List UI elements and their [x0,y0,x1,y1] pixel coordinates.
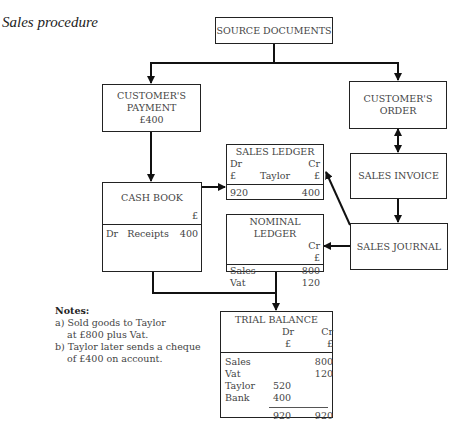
trial-balance-title: TRIAL BALANCE [221,314,332,326]
tb-cr: 120 [303,368,333,380]
nominal-ledger-box: NOMINAL LEDGER Cr £ Sales 800 Vat 120 [226,214,324,272]
notes-heading: Notes: [55,305,201,317]
customers-order-line2: ORDER [380,105,417,117]
customers-order-line1: CUSTOMER'S [364,93,433,105]
sales-invoice-label: SALES INVOICE [358,170,439,182]
customers-payment-box: CUSTOMER'S PAYMENT £400 [102,84,201,132]
nominal-ledger-row: Sales 800 [227,265,323,277]
tb-total-dr: 920 [273,410,303,422]
sales-ledger-cr: Cr [308,158,320,170]
note-b-line1: b) Taylor later sends a cheque [55,341,201,353]
tb-dr: 520 [273,380,303,392]
sales-journal-label: SALES JOURNAL [357,241,441,253]
row-label: Sales [230,265,256,277]
trial-balance-pound-dr: £ [273,338,303,350]
tb-label: Taylor [225,380,273,392]
sales-invoice-box: SALES INVOICE [350,153,447,199]
tb-dr [273,368,303,380]
sales-ledger-credit: 400 [302,187,320,199]
sales-ledger-dr: Dr [230,158,242,170]
sales-journal-box: SALES JOURNAL [350,223,448,270]
customers-payment-line2: PAYMENT [127,102,177,114]
source-documents-label: SOURCE DOCUMENTS [216,25,331,37]
row-value: 800 [302,265,320,277]
sales-ledger-title: SALES LEDGER [227,146,323,158]
cash-book-title: CASH BOOK [103,192,201,204]
row-value: 120 [302,277,320,289]
trial-balance-cr: Cr [303,326,333,338]
tb-dr: 400 [273,392,303,404]
tb-total-cr: 920 [303,410,333,422]
cash-book-pound: £ [192,210,198,222]
cash-book-amount: 400 [180,228,198,240]
nominal-ledger-cr: Cr [308,240,320,252]
note-a-line2: at £800 plus Vat. [55,329,201,341]
tb-label: Sales [225,356,273,368]
notes-block: Notes: a) Sold goods to Taylor at £800 p… [55,305,201,365]
nominal-ledger-row: Vat 120 [227,277,323,289]
sales-ledger-pound-dr: £ [230,170,236,182]
sales-ledger-account: Taylor [260,170,290,182]
tb-cr [303,380,333,392]
tb-cr [303,392,333,404]
tb-label: Vat [225,368,273,380]
row-label: Vat [230,277,245,289]
sales-ledger-box: SALES LEDGER Dr Cr £ Taylor £ 920 400 [226,144,324,200]
cash-book-box: CASH BOOK £ Dr Receipts 400 [102,182,202,272]
trial-balance-box: TRIAL BALANCE Dr Cr £ £ Sales 800 Vat 12… [220,311,333,418]
source-documents-box: SOURCE DOCUMENTS [215,17,333,44]
tb-dr [273,356,303,368]
cash-book-receipts: Receipts [127,228,169,239]
note-a-line1: a) Sold goods to Taylor [55,317,201,329]
sales-ledger-debit: 920 [230,187,248,199]
sales-ledger-pound-cr: £ [314,170,320,182]
note-b-line2: of £400 on account. [55,353,201,365]
customers-payment-amount: £400 [139,114,163,126]
tb-cr: 800 [303,356,333,368]
trial-balance-pound-cr: £ [303,338,333,350]
tb-label: Bank [225,392,273,404]
trial-balance-dr: Dr [273,326,303,338]
customers-order-box: CUSTOMER'S ORDER [349,81,447,129]
nominal-ledger-title: NOMINAL LEDGER [227,216,323,240]
customers-payment-line1: CUSTOMER'S [117,90,186,102]
nominal-ledger-pound: £ [314,252,320,264]
cash-book-dr: Dr [106,228,118,239]
